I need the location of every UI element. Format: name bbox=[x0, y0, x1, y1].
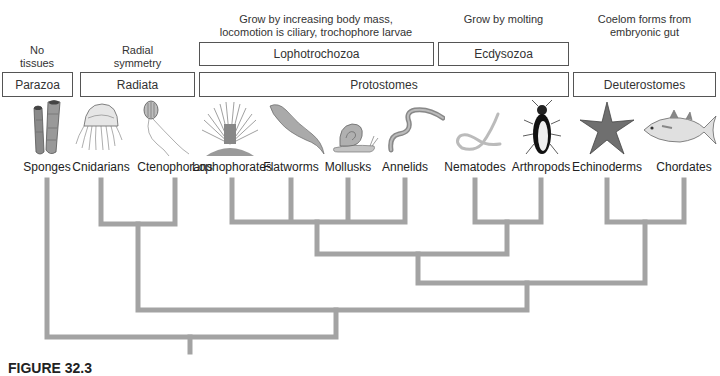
branch-deuterostomes bbox=[607, 180, 684, 222]
branch-eumetazoa bbox=[138, 224, 527, 310]
figure-caption: FIGURE 32.3 bbox=[8, 360, 92, 376]
branch-radiata bbox=[101, 180, 175, 224]
branch-lophotrochozoa bbox=[232, 180, 405, 222]
branch-protostomes bbox=[317, 222, 507, 254]
branch-ecdysozoa bbox=[475, 180, 541, 222]
